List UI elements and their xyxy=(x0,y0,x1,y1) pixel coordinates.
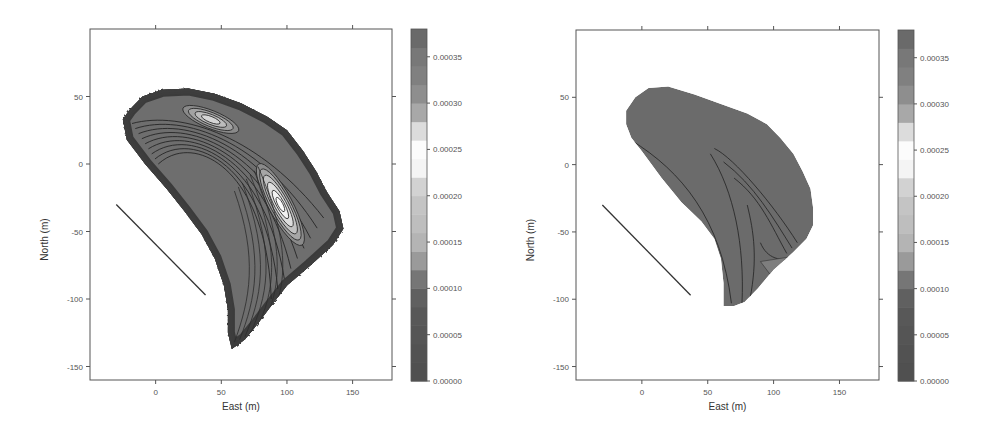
colorbar-tick-label: 0.00035 xyxy=(433,53,462,62)
y-tick-label: -150 xyxy=(67,363,84,372)
colorbar-tick-label: 0.00000 xyxy=(433,377,462,386)
colorbar-band xyxy=(898,30,914,49)
colorbar-band xyxy=(411,48,427,67)
x-tick-label: 150 xyxy=(346,388,360,397)
colorbar-band xyxy=(898,104,914,123)
colorbar-band xyxy=(411,325,427,344)
colorbar-band xyxy=(411,159,427,178)
panel-2: 050100150500-50-100-150East (m)North (m)… xyxy=(525,26,949,412)
colorbar-band xyxy=(411,122,427,141)
colorbar: 0.000000.000050.000100.000150.000200.000… xyxy=(411,29,462,386)
colorbar-band xyxy=(411,177,427,196)
y-tick-label: -150 xyxy=(553,363,570,372)
colorbar-band xyxy=(898,159,914,178)
y-tick-label: -50 xyxy=(557,228,569,237)
y-tick-label: 0 xyxy=(565,161,570,170)
colorbar-band xyxy=(411,270,427,289)
contour-field xyxy=(123,88,344,349)
colorbar-band xyxy=(898,289,914,308)
colorbar-tick-label: 0.00020 xyxy=(433,192,462,201)
colorbar-tick-label: 0.00030 xyxy=(920,100,949,109)
colorbar-tick-label: 0.00010 xyxy=(920,285,949,294)
contour-region xyxy=(626,87,813,307)
colorbar-band xyxy=(898,48,914,67)
y-axis-label: North (m) xyxy=(39,218,50,260)
x-axis-label: East (m) xyxy=(709,401,747,412)
y-axis-label: North (m) xyxy=(525,219,536,261)
colorbar-band xyxy=(898,85,914,104)
colorbar-band xyxy=(411,66,427,85)
colorbar-tick-label: 0.00005 xyxy=(920,331,949,340)
y-tick-label: -100 xyxy=(553,295,570,304)
colorbar-tick-label: 0.00015 xyxy=(920,238,949,247)
colorbar-band xyxy=(898,252,914,271)
colorbar: 0.000000.000050.000100.000150.000200.000… xyxy=(898,30,949,386)
x-axis-label: East (m) xyxy=(222,401,260,412)
x-tick-label: 100 xyxy=(280,388,294,397)
contour-field xyxy=(626,87,813,307)
profile-line xyxy=(602,205,690,295)
x-tick-label: 0 xyxy=(153,388,158,397)
colorbar-tick-label: 0.00030 xyxy=(433,99,462,108)
x-tick-label: 0 xyxy=(640,388,645,397)
colorbar-tick-label: 0.00020 xyxy=(920,192,949,201)
y-tick-label: 50 xyxy=(560,93,569,102)
x-tick-label: 50 xyxy=(703,388,712,397)
y-tick-label: 50 xyxy=(74,93,83,102)
colorbar-band xyxy=(411,29,427,48)
panel-1: 050100150500-50-100-150East (m)North (m)… xyxy=(39,25,462,412)
colorbar-band xyxy=(898,233,914,252)
colorbar-tick-label: 0.00015 xyxy=(433,238,462,247)
colorbar-band xyxy=(411,103,427,122)
colorbar-band xyxy=(411,233,427,252)
colorbar-band xyxy=(898,122,914,141)
figure: 050100150500-50-100-150East (m)North (m)… xyxy=(0,0,998,435)
colorbar-tick-label: 0.00025 xyxy=(920,146,949,155)
colorbar-band xyxy=(411,362,427,381)
colorbar-tick-label: 0.00035 xyxy=(920,54,949,63)
y-tick-label: -50 xyxy=(71,228,83,237)
colorbar-tick-label: 0.00005 xyxy=(433,331,462,340)
colorbar-band xyxy=(898,307,914,326)
x-tick-label: 50 xyxy=(217,388,226,397)
colorbar-band xyxy=(411,140,427,159)
colorbar-band xyxy=(898,326,914,345)
colorbar-band xyxy=(898,344,914,363)
colorbar-band xyxy=(898,67,914,86)
colorbar-band xyxy=(898,270,914,289)
colorbar-band xyxy=(411,307,427,326)
colorbar-band xyxy=(411,288,427,307)
colorbar-band xyxy=(898,196,914,215)
colorbar-band xyxy=(411,85,427,104)
y-tick-label: -100 xyxy=(67,295,84,304)
x-tick-label: 150 xyxy=(833,388,847,397)
colorbar-band xyxy=(898,141,914,160)
colorbar-band xyxy=(411,251,427,270)
colorbar-band xyxy=(898,215,914,234)
colorbar-band xyxy=(411,196,427,215)
colorbar-tick-label: 0.00000 xyxy=(920,377,949,386)
colorbar-band xyxy=(898,363,914,382)
colorbar-tick-label: 0.00025 xyxy=(433,145,462,154)
y-tick-label: 0 xyxy=(79,160,84,169)
colorbar-band xyxy=(411,344,427,363)
colorbar-band xyxy=(898,178,914,197)
colorbar-band xyxy=(411,214,427,233)
colorbar-tick-label: 0.00010 xyxy=(433,284,462,293)
x-tick-label: 100 xyxy=(767,388,781,397)
